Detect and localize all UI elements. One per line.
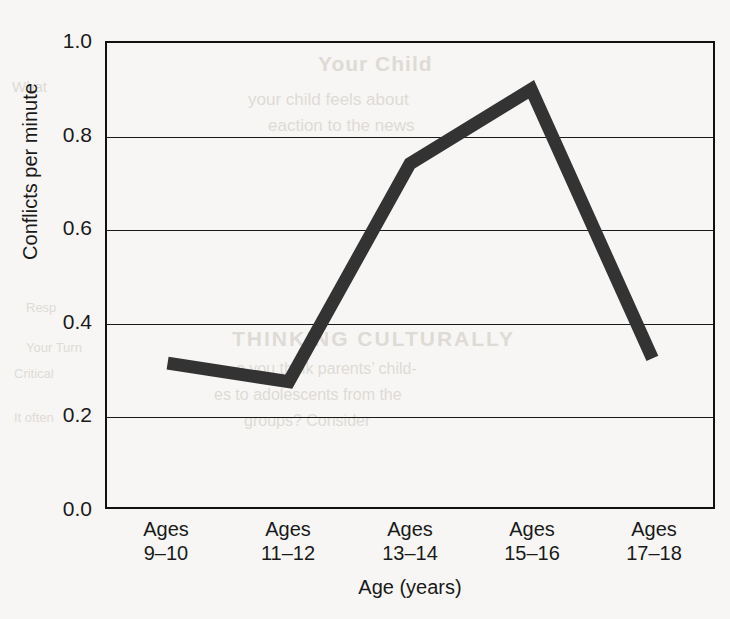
x-axis-title-text: Age (years) [358,576,461,598]
y-axis-tick-label: 0.2 [12,403,92,427]
plot-area [105,41,715,509]
bleed-text: Critical [14,366,54,381]
x-axis-tick-label: Ages13–14 [350,518,470,565]
x-axis-tick-label: Ages17–18 [594,518,714,565]
x-axis-title: Age (years) [0,576,730,599]
y-axis-title: Conflicts per minute [19,22,42,322]
x-axis-tick-label: Ages15–16 [472,518,592,565]
y-axis-tick-label: 0.0 [12,497,92,521]
bleed-text: It often [14,410,54,425]
chart-page: Your Child your child feels about eactio… [0,0,730,619]
x-axis-tick-label: Ages9–10 [106,518,226,565]
x-axis-tick-label: Ages11–12 [228,518,348,565]
data-series-line [107,43,713,507]
bleed-text: Your Turn [26,340,82,355]
